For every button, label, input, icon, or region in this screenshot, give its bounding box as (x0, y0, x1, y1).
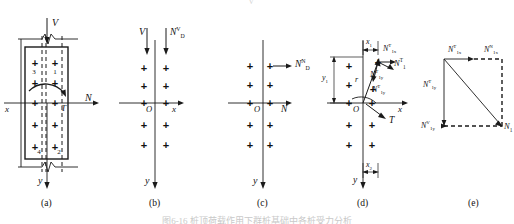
panel-b-caption: (b) (149, 198, 160, 208)
panel-b-label-V: V (139, 27, 145, 37)
panel-a-label-V: V (52, 18, 58, 28)
panel-a-plus: + (52, 120, 58, 131)
panel-a-plus: + (32, 78, 38, 89)
panel-e-tl-sup: T (453, 44, 456, 49)
panel-a-plus: + (52, 58, 58, 69)
panel-b-plus: + (141, 120, 147, 131)
panel-a-caption: (a) (41, 198, 52, 208)
panel-d-label-T: T (389, 116, 394, 126)
panel-b-label-force: NVD (170, 27, 185, 40)
panel-d-x2-sub: 2 (370, 166, 372, 171)
panel-d-plus: + (369, 98, 375, 109)
panel-b-plus: + (163, 140, 169, 151)
panel-d-label-origin: O (353, 105, 359, 114)
panel-b-plus: + (141, 140, 147, 151)
panel-b-plus: + (141, 63, 147, 74)
panel-c-label-N: N (281, 105, 287, 115)
panel-d-plus: + (346, 80, 352, 91)
bottom-cut-caption: 图6-16 桩顶荷载作用下群桩基础中各桩受力分析 (0, 214, 514, 224)
panel-d-N1yT-sub: 1y (378, 75, 383, 80)
panel-e-tr-sub: 1x (493, 50, 498, 55)
panel-a-plus: + (52, 98, 58, 109)
panel-d-plus: + (369, 120, 375, 131)
panel-c-caption: (c) (257, 198, 268, 208)
panel-e-br-sub: 1 (510, 127, 513, 133)
panel-e-label-bottom-right: N1 (504, 122, 512, 133)
panel-b-force-sup: V (176, 26, 180, 32)
panel-d-N1yT-sup: T (375, 69, 378, 74)
panel-d-label-x: x (398, 105, 402, 114)
panel-c-plus: + (247, 98, 253, 109)
panel-d-label-r: r (355, 76, 358, 84)
panel-c-label-y: y (253, 176, 257, 186)
panel-e-bl-sub: 1y (430, 126, 435, 131)
panel-d-plus: + (346, 61, 352, 72)
panel-b-plus: + (141, 81, 147, 92)
panel-d-plus: + (369, 140, 375, 151)
panel-c-plus: + (267, 98, 273, 109)
panel-c-graphics (228, 40, 292, 189)
panel-c-plus: + (267, 80, 273, 91)
panel-a-region-4: 4 (37, 148, 41, 156)
panel-a-label-N: N (85, 93, 92, 103)
panel-b-label-y: y (145, 176, 149, 186)
panel-d-plus: + (346, 140, 352, 151)
panel-c-plus: + (267, 120, 273, 131)
panel-b-plus: + (141, 98, 147, 109)
panel-c-force-sub: D (306, 65, 310, 71)
panel-d-y1-sub: 1 (326, 79, 328, 84)
panel-c-plus: + (267, 61, 273, 72)
panel-d-label-N1y-T: NT1y (370, 70, 383, 81)
panel-a-plus: + (32, 98, 38, 109)
panel-d-label-y1: y1 (322, 74, 328, 85)
panel-a-plus: + (32, 120, 38, 131)
panel-c-plus: + (247, 120, 253, 131)
panel-a-plus: + (32, 58, 38, 69)
panel-a-label-T: T (61, 104, 66, 113)
panel-d-N1xT-sup: T (388, 43, 391, 48)
panel-d-label-x1: x1 (366, 38, 372, 49)
panel-c-plus: + (247, 140, 253, 151)
panel-d-label-y: y (353, 176, 357, 186)
panel-b-plus: + (163, 120, 169, 131)
panel-d-N1yT2-sup: T (377, 84, 380, 89)
panel-d-N1T-sup: T (400, 57, 403, 63)
panel-e-label-top-right: NN1x (484, 45, 498, 56)
top-cut-mark: V (248, 0, 255, 6)
panel-d-label-N1x-T: NT1x (383, 44, 396, 55)
panel-d-N1xT-sub: 1x (391, 49, 396, 54)
panel-c-label-origin: O (254, 105, 260, 114)
panel-a-label-y: y (38, 176, 42, 186)
panel-c-label-force: NND (295, 59, 310, 72)
panel-d-plus: + (346, 98, 352, 109)
panel-d-plus: + (375, 57, 381, 68)
panel-a-label-x: x (5, 105, 9, 114)
panel-e-caption: (e) (468, 198, 479, 208)
panel-d-plus: + (346, 120, 352, 131)
panel-d-x1-sub: 1 (370, 43, 372, 48)
panel-a-plus: + (52, 78, 58, 89)
panel-b-plus: + (163, 81, 169, 92)
panel-e-l-sup: T (428, 79, 431, 84)
panel-e-tr-sup: N (489, 44, 493, 49)
panel-e-bl-sup: V (426, 120, 430, 125)
panel-e-label-left: NT1y (423, 80, 436, 91)
panel-e-label-bottom-left: NV1y (421, 121, 435, 132)
panel-b-plus: + (163, 63, 169, 74)
panel-a-region-1: 1 (53, 68, 57, 76)
panel-d-plus: + (370, 84, 376, 95)
panel-e-graphics (441, 57, 503, 129)
panel-a-region-2: 2 (57, 148, 61, 156)
panel-a-region-3: 3 (32, 68, 36, 76)
panel-d-label-N1-T: NT1 (394, 58, 406, 70)
panel-d-N1T-sub: 1 (403, 64, 406, 70)
panel-c-plus: + (247, 61, 253, 72)
panel-c-plus: + (247, 80, 253, 91)
panel-e-tl-sub: 1x (456, 50, 461, 55)
panel-b-label-x: x (172, 105, 176, 114)
panel-d-label-x2: x2 (366, 161, 372, 172)
panel-e-l-sub: 1y (431, 85, 436, 90)
panel-e-label-top-left: NT1x (448, 45, 461, 56)
panel-c-plus: + (267, 140, 273, 151)
panel-b-force-sub: D (181, 33, 185, 39)
